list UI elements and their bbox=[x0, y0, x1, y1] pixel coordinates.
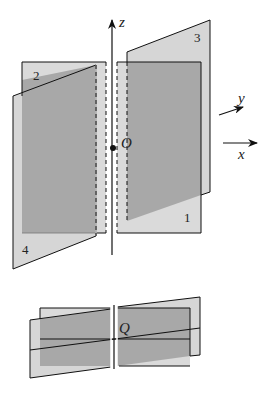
top-view: z O 2 3 1 4 y x bbox=[13, 14, 257, 269]
origin-point bbox=[110, 145, 116, 151]
plane-label-3: 3 bbox=[194, 30, 201, 45]
z-axis-label: z bbox=[118, 14, 125, 30]
overlap-left bbox=[22, 65, 96, 233]
origin-label: O bbox=[121, 135, 132, 151]
y-axis-label: y bbox=[236, 90, 245, 106]
x-axis-label: x bbox=[237, 146, 245, 162]
y-axis-arrow bbox=[219, 107, 243, 115]
bottom-view: Q bbox=[30, 297, 200, 378]
plane-label-1: 1 bbox=[184, 210, 191, 225]
point-q-label: Q bbox=[119, 320, 130, 336]
plane-label-2: 2 bbox=[33, 68, 40, 83]
overlap-right bbox=[127, 62, 201, 221]
diagram-canvas: z O 2 3 1 4 y x bbox=[0, 0, 271, 394]
plane-label-4: 4 bbox=[22, 242, 29, 257]
